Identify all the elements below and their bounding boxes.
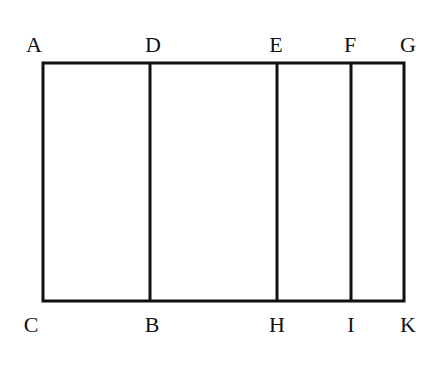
label-E: E (269, 32, 282, 57)
label-D: D (145, 32, 161, 57)
label-F: F (344, 32, 356, 57)
label-I: I (347, 312, 354, 337)
rectangle-diagram: A D E F G C B H I K (0, 0, 440, 368)
label-C: C (24, 312, 39, 337)
label-B: B (145, 312, 160, 337)
label-G: G (400, 32, 416, 57)
label-A: A (26, 32, 42, 57)
label-K: K (400, 312, 416, 337)
label-H: H (269, 312, 285, 337)
